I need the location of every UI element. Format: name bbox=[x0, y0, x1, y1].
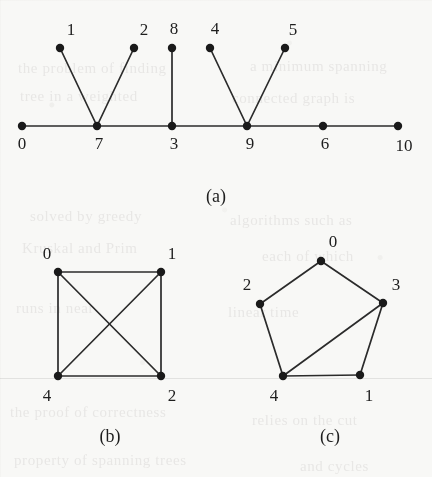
vertex-label: 3 bbox=[392, 275, 401, 295]
vertex-label: 4 bbox=[270, 386, 279, 406]
graph-node bbox=[243, 122, 251, 130]
graph-node bbox=[379, 299, 387, 307]
vertex-label: 8 bbox=[170, 19, 179, 39]
nodes-layer bbox=[18, 44, 402, 380]
graph-node bbox=[168, 44, 176, 52]
vertex-label: 5 bbox=[289, 20, 298, 40]
graph-node bbox=[281, 44, 289, 52]
graph-node bbox=[256, 300, 264, 308]
edges-layer bbox=[22, 48, 398, 376]
graph-edge bbox=[260, 304, 283, 376]
panel-caption-a: (a) bbox=[206, 186, 226, 207]
graph-edge bbox=[283, 303, 383, 376]
graph-edge bbox=[360, 303, 383, 375]
graph-edge bbox=[321, 261, 383, 303]
figure-page: the problem of findinga minimum spanning… bbox=[0, 0, 432, 477]
graph-edge bbox=[60, 48, 97, 126]
vertex-label: 1 bbox=[168, 244, 177, 264]
vertex-label: 2 bbox=[243, 275, 252, 295]
vertex-label: 0 bbox=[43, 244, 52, 264]
graph-node bbox=[356, 371, 364, 379]
graph-edge bbox=[247, 48, 285, 126]
vertex-label: 4 bbox=[211, 19, 220, 39]
graph-node bbox=[54, 268, 62, 276]
graph-node bbox=[206, 44, 214, 52]
panel-caption-c: (c) bbox=[320, 426, 340, 447]
panel-caption-b: (b) bbox=[100, 426, 121, 447]
graph-node bbox=[394, 122, 402, 130]
graph-node bbox=[157, 372, 165, 380]
graph-node bbox=[54, 372, 62, 380]
graph-node bbox=[317, 257, 325, 265]
graph-node bbox=[56, 44, 64, 52]
vertex-label: 4 bbox=[43, 386, 52, 406]
vertex-label: 0 bbox=[329, 232, 338, 252]
vertex-label: 1 bbox=[365, 386, 374, 406]
vertex-label: 6 bbox=[321, 134, 330, 154]
graph-node bbox=[157, 268, 165, 276]
vertex-label: 10 bbox=[396, 136, 413, 156]
vertex-label: 3 bbox=[170, 134, 179, 154]
vertex-label: 1 bbox=[67, 20, 76, 40]
graph-edge bbox=[210, 48, 247, 126]
graph-edge bbox=[283, 375, 360, 376]
graph-node bbox=[93, 122, 101, 130]
graph-node bbox=[18, 122, 26, 130]
graph-edge bbox=[97, 48, 134, 126]
vertex-label: 2 bbox=[168, 386, 177, 406]
graph-edge bbox=[260, 261, 321, 304]
graph-node bbox=[168, 122, 176, 130]
graph-node bbox=[279, 372, 287, 380]
vertex-label: 0 bbox=[18, 134, 27, 154]
vertex-label: 7 bbox=[95, 134, 104, 154]
graph-node bbox=[319, 122, 327, 130]
vertex-label: 9 bbox=[246, 134, 255, 154]
vertex-label: 2 bbox=[140, 20, 149, 40]
graph-node bbox=[130, 44, 138, 52]
